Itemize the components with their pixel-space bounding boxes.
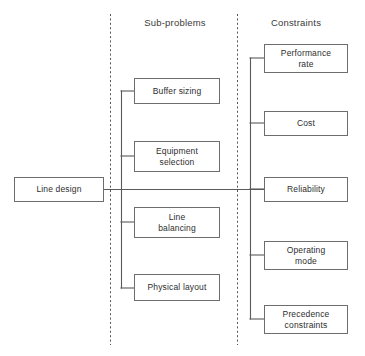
node-reliability[interactable]: Reliability [264, 177, 348, 202]
node-label: Line balancing [158, 212, 196, 234]
node-physical-layout[interactable]: Physical layout [134, 274, 220, 301]
node-label: Precedence constraints [283, 309, 330, 331]
node-label: Buffer sizing [153, 86, 202, 97]
node-operating-mode[interactable]: Operating mode [264, 241, 348, 270]
column-header-constraints: Constraints [240, 17, 352, 28]
node-line-design[interactable]: Line design [14, 177, 104, 202]
node-precedence-constraints[interactable]: Precedence constraints [264, 305, 348, 334]
node-label: Equipment selection [156, 146, 198, 168]
node-buffer-sizing[interactable]: Buffer sizing [134, 78, 220, 104]
diagram-canvas: Sub-problems Constraints Line design Buf… [0, 0, 365, 356]
node-equipment-selection[interactable]: Equipment selection [134, 141, 220, 172]
node-label: Performance rate [281, 48, 331, 70]
node-performance-rate[interactable]: Performance rate [264, 44, 348, 73]
node-cost[interactable]: Cost [264, 111, 348, 136]
node-line-balancing[interactable]: Line balancing [134, 207, 220, 238]
node-label: Reliability [287, 184, 325, 195]
column-header-sub-problems: Sub-problems [113, 17, 237, 28]
node-label: Cost [297, 118, 315, 129]
node-label: Physical layout [148, 282, 207, 293]
node-label: Operating mode [287, 245, 326, 267]
node-label: Line design [36, 184, 81, 195]
